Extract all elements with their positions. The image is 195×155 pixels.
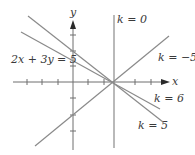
line-k-6 <box>21 32 160 109</box>
y-axis-arrow-icon <box>70 20 76 29</box>
x-axis-arrow-icon <box>161 79 170 85</box>
y-axis-label: y <box>69 6 77 19</box>
line-k-5 <box>28 16 163 122</box>
x-axis-label: x <box>172 75 179 88</box>
label-k-minus-5: k = −5 <box>158 51 195 64</box>
family-of-lines-diagram: y x k = 0 k = −5 k = 6 k = 5 2x + 3y = 5 <box>0 0 195 155</box>
label-k-6: k = 6 <box>154 92 184 105</box>
label-k-5: k = 5 <box>138 119 168 132</box>
equation-label: 2x + 3y = 5 <box>10 53 77 66</box>
label-k-0: k = 0 <box>117 13 147 26</box>
